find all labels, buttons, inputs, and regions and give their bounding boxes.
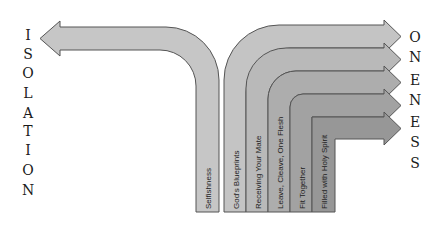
isolation-letter: I — [25, 142, 31, 158]
isolation-letter: I — [25, 27, 31, 43]
oneness-letter: E — [410, 114, 420, 130]
arrow-label-leave-cleave: Leave, Cleave, One Flesh — [276, 117, 285, 210]
isolation-word: I S O L A T I O N — [22, 27, 34, 198]
oneness-letter: N — [409, 92, 421, 108]
oneness-letter: O — [409, 29, 420, 45]
arrow-label-selfishness: Selfishness — [204, 168, 213, 209]
oneness-letter: S — [410, 155, 420, 171]
arrow-label-filled-holy-spirit: Filled with Holy Spirit — [320, 134, 329, 209]
isolation-letter: O — [22, 162, 33, 178]
isolation-letter: O — [22, 65, 33, 81]
oneness-letter: N — [409, 49, 421, 65]
arrow-label-fit-together: Fit Together — [298, 167, 307, 209]
isolation-letter: S — [23, 46, 33, 62]
arrow-shape — [40, 21, 219, 212]
isolation-letter: A — [22, 105, 34, 121]
arrow-fit-together — [290, 89, 401, 212]
isolation-letter: T — [23, 123, 33, 139]
oneness-letter: S — [410, 134, 420, 150]
arrow-label-receiving-your-mate: Receiving Your Mate — [254, 135, 263, 209]
isolation-letter: N — [22, 182, 34, 198]
oneness-letter: E — [410, 72, 420, 88]
oneness-arrows: God's Blueprints Receiving Your Mate Lea… — [224, 20, 401, 212]
isolation-oneness-diagram: I S O L A T I O N Selfishness — [0, 0, 442, 225]
selfishness-arrow: Selfishness — [40, 21, 219, 212]
arrow-label-gods-blueprints: God's Blueprints — [232, 151, 241, 209]
isolation-letter: L — [23, 85, 32, 101]
oneness-word: O N E N E S S — [409, 29, 421, 171]
